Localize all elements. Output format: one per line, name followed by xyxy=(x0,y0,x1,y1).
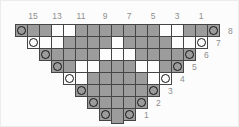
yarn-over-icon xyxy=(137,98,146,107)
row-label: 8 xyxy=(228,27,239,36)
yarn-over-icon xyxy=(89,98,98,107)
yarn-over-icon xyxy=(185,50,194,59)
column-label: 9 xyxy=(97,12,113,21)
column-label: 7 xyxy=(121,12,137,21)
chart-cell xyxy=(147,84,160,97)
chart-cell xyxy=(195,36,208,49)
column-label: 15 xyxy=(25,12,41,21)
yarn-over-icon xyxy=(77,86,86,95)
column-label: 5 xyxy=(145,12,161,21)
row-label: 7 xyxy=(216,39,228,48)
yarn-over-icon xyxy=(53,62,62,71)
column-label: 13 xyxy=(49,12,65,21)
row-label: 2 xyxy=(156,99,168,108)
column-label: 1 xyxy=(193,12,209,21)
chart-cell xyxy=(159,72,172,85)
yarn-over-icon xyxy=(149,86,158,95)
column-label: 11 xyxy=(73,12,89,21)
yarn-over-icon xyxy=(209,26,218,35)
yarn-over-icon xyxy=(41,50,50,59)
yarn-over-icon xyxy=(173,62,182,71)
chart-cell xyxy=(183,48,196,61)
column-label: 3 xyxy=(169,12,185,21)
cast-on-tab xyxy=(111,120,124,124)
yarn-over-icon xyxy=(197,38,206,47)
yarn-over-icon xyxy=(17,26,26,35)
chart-cell xyxy=(135,96,148,109)
chart-cell xyxy=(207,24,220,37)
row-label: 6 xyxy=(204,51,216,60)
row-label: 4 xyxy=(180,75,192,84)
row-label: 1 xyxy=(144,111,156,120)
yarn-over-icon xyxy=(161,74,170,83)
chart-cell xyxy=(123,108,136,121)
row-label: 3 xyxy=(168,87,180,96)
yarn-over-icon xyxy=(29,38,38,47)
knitting-chart: 15131197531 87654321 xyxy=(0,0,239,127)
yarn-over-icon xyxy=(125,110,134,119)
yarn-over-icon xyxy=(65,74,74,83)
yarn-over-icon xyxy=(101,110,110,119)
row-label: 5 xyxy=(192,63,204,72)
chart-cell xyxy=(171,60,184,73)
